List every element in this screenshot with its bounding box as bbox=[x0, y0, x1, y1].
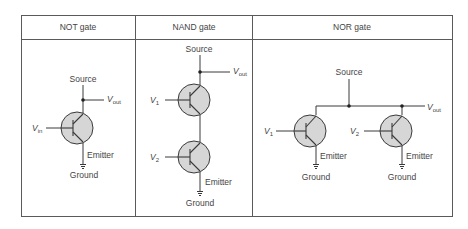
nor-emitter-1-label: Emitter bbox=[320, 151, 347, 161]
logic-gates-diagram: NOT gate NAND gate NOR gate Source Vout bbox=[0, 0, 468, 229]
nand-ground-icon bbox=[197, 192, 203, 196]
nor-v1-label: V1 bbox=[264, 126, 274, 137]
nand-gate-circuit: Source bbox=[150, 44, 247, 208]
nor-ground-1-icon bbox=[313, 165, 319, 169]
not-gate-circuit: Source Vout Vin Emitter Ground bbox=[32, 74, 121, 180]
nor-gate-circuit: Source bbox=[264, 67, 441, 182]
not-transistor-icon bbox=[61, 112, 93, 144]
nand-emitter-label: Emitter bbox=[205, 177, 232, 187]
nor-ground-2-label: Ground bbox=[388, 172, 417, 182]
not-vout-label: Vout bbox=[107, 94, 121, 105]
nand-v2-label: V2 bbox=[150, 152, 160, 163]
nor-source-label: Source bbox=[336, 67, 363, 77]
nor-emitter-2-label: Emitter bbox=[406, 151, 433, 161]
nor-ground-1-label: Ground bbox=[302, 172, 331, 182]
nor-transistor-2-icon bbox=[380, 115, 412, 147]
nor-junction-dot-2 bbox=[400, 104, 404, 108]
not-ground-label: Ground bbox=[70, 170, 99, 180]
nand-source-label: Source bbox=[186, 44, 213, 54]
nand-transistor-2-icon bbox=[178, 141, 210, 173]
header-not-gate: NOT gate bbox=[60, 22, 97, 32]
nor-v2-label: V2 bbox=[350, 126, 360, 137]
nand-junction-dot bbox=[198, 70, 202, 74]
nand-transistor-1-icon bbox=[178, 84, 210, 116]
not-vin-label: Vin bbox=[32, 123, 42, 134]
nand-vout-label: Vout bbox=[233, 66, 247, 77]
nor-ground-2-icon bbox=[399, 165, 405, 169]
nand-ground-label: Ground bbox=[186, 198, 215, 208]
nand-v1-label: V1 bbox=[150, 95, 160, 106]
not-emitter-label: Emitter bbox=[87, 150, 114, 160]
not-junction-dot bbox=[81, 98, 85, 102]
nor-transistor-1-icon bbox=[294, 115, 326, 147]
not-ground-icon bbox=[80, 165, 86, 169]
header-nand-gate: NAND gate bbox=[173, 22, 216, 32]
nor-vout-label: Vout bbox=[427, 102, 441, 113]
nor-junction-dot-1 bbox=[347, 104, 351, 108]
header-nor-gate: NOR gate bbox=[333, 22, 371, 32]
not-source-label: Source bbox=[70, 74, 97, 84]
